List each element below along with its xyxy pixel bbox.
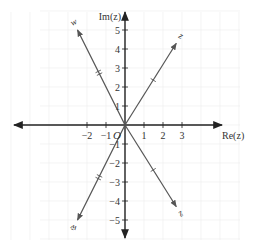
x-tick-label: 2 bbox=[161, 130, 166, 141]
y-tick-label: 1 bbox=[115, 101, 120, 112]
y-tick-label: −3 bbox=[109, 177, 120, 188]
y-tick-label: 4 bbox=[115, 44, 120, 55]
x-tick-label: 1 bbox=[142, 130, 147, 141]
vector-upper-right bbox=[125, 43, 176, 125]
y-tick-label: 3 bbox=[115, 63, 120, 74]
y-tick-label: 5 bbox=[115, 25, 120, 36]
x-tick-label: −2 bbox=[82, 130, 93, 141]
vector-upper-right-label: z bbox=[176, 30, 186, 41]
y-tick-label: 2 bbox=[115, 82, 120, 93]
x-tick-label: 3 bbox=[180, 130, 185, 141]
y-axis-label: Im(z) bbox=[99, 11, 121, 23]
y-tick-label: −4 bbox=[109, 196, 120, 207]
x-axis-label: Re(z) bbox=[222, 130, 244, 142]
y-tick-label: −2 bbox=[109, 158, 120, 169]
origin-label: O bbox=[113, 129, 121, 141]
vector-upper-left-label: w bbox=[69, 16, 79, 28]
vector-lower-right bbox=[125, 125, 176, 207]
vector-lower-right-label: z̄ bbox=[176, 209, 186, 220]
y-tick-label: −5 bbox=[109, 215, 120, 226]
vector-lower-left-label: w̄ bbox=[69, 222, 79, 234]
argand-diagram: −2−112354321−1−2−3−4−5OIm(z)Re(z)wzw̄z̄ bbox=[0, 0, 256, 250]
labels: −2−112354321−1−2−3−4−5OIm(z)Re(z)wzw̄z̄ bbox=[69, 11, 245, 234]
